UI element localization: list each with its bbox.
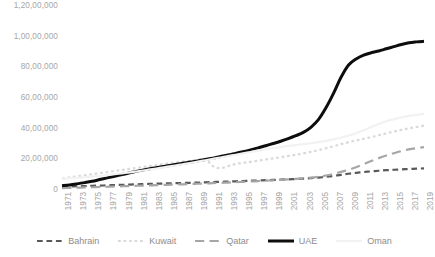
x-axis-tick: 1995: [246, 192, 254, 210]
legend-label-oman: Oman: [367, 237, 392, 246]
x-axis-tick: 2001: [291, 192, 299, 210]
y-axis-labels: 1,20,00,0001,00,00,00080,00,00060,00,000…: [0, 0, 60, 200]
x-axis-tick: 1991: [216, 192, 224, 210]
series-paths: [62, 41, 424, 188]
x-axis-tick: 1971: [65, 192, 73, 210]
legend-item-bahrain[interactable]: Bahrain: [36, 236, 99, 246]
x-axis-tick: 2009: [352, 192, 360, 210]
y-axis-tick: 0: [53, 186, 58, 194]
series-line-oman: [62, 114, 424, 179]
x-axis-tick: 2013: [382, 192, 390, 210]
x-axis-tick: 1989: [201, 192, 209, 210]
legend-swatch-bahrain: [36, 236, 64, 246]
x-axis-tick: 2007: [337, 192, 345, 210]
legend-swatch-oman: [335, 236, 363, 246]
x-axis-labels: 1971197319751977197919811983198519871989…: [62, 192, 424, 226]
y-axis-tick: 1,00,00,000: [14, 33, 58, 41]
chart-legend: BahrainKuwaitQatarUAEOman: [0, 230, 428, 252]
y-axis-tick: 20,00,000: [21, 155, 58, 163]
x-axis-tick: 1975: [95, 192, 103, 210]
x-axis-tick: 2017: [412, 192, 420, 210]
plot-area: [62, 6, 424, 190]
legend-item-oman[interactable]: Oman: [335, 236, 392, 246]
x-axis-tick: 2015: [397, 192, 405, 210]
legend-label-kuwait: Kuwait: [149, 237, 176, 246]
x-axis-tick: 1999: [276, 192, 284, 210]
y-axis-tick: 1,20,00,000: [14, 2, 58, 10]
series-line-bahrain: [62, 168, 424, 186]
y-axis-tick: 40,00,000: [21, 125, 58, 133]
x-axis-tick: 1987: [186, 192, 194, 210]
x-axis-tick: 1979: [126, 192, 134, 210]
legend-label-uae: UAE: [299, 237, 318, 246]
legend-label-bahrain: Bahrain: [68, 237, 99, 246]
x-axis-tick: 1997: [261, 192, 269, 210]
x-axis-tick: 1993: [231, 192, 239, 210]
x-axis-tick: 2019: [427, 192, 435, 210]
legend-swatch-kuwait: [117, 236, 145, 246]
x-axis-tick: 1985: [171, 192, 179, 210]
x-axis-tick: 1973: [80, 192, 88, 210]
series-line-uae: [62, 41, 424, 185]
legend-item-qatar[interactable]: Qatar: [194, 236, 249, 246]
y-axis-tick: 80,00,000: [21, 63, 58, 71]
x-axis-tick: 2003: [307, 192, 315, 210]
series-canvas: [62, 6, 424, 190]
legend-swatch-uae: [267, 236, 295, 246]
legend-item-uae[interactable]: UAE: [267, 236, 318, 246]
y-axis-tick: 60,00,000: [21, 94, 58, 102]
x-axis-tick: 2005: [322, 192, 330, 210]
legend-label-qatar: Qatar: [226, 237, 249, 246]
x-axis-tick: 2011: [367, 192, 375, 210]
x-axis-tick: 1977: [110, 192, 118, 210]
legend-item-kuwait[interactable]: Kuwait: [117, 236, 176, 246]
x-axis-tick: 1981: [141, 192, 149, 210]
x-axis-tick: 1983: [156, 192, 164, 210]
legend-swatch-qatar: [194, 236, 222, 246]
